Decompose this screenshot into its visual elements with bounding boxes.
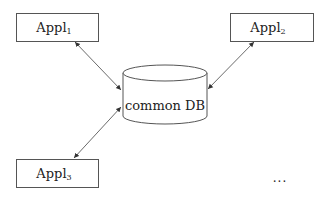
appl2-label: Appl2: [249, 20, 285, 36]
ellipsis-annotation: ...: [273, 171, 287, 185]
db-label: common DB: [125, 98, 205, 113]
diagram-svg: Appl1 Appl2 Appl3 common DB ...: [0, 0, 325, 197]
diagram-canvas: Appl1 Appl2 Appl3 common DB ...: [0, 0, 325, 197]
node-common-db: common DB: [123, 65, 207, 124]
node-appl3: Appl3: [17, 160, 99, 188]
appl1-label: Appl1: [35, 20, 71, 36]
appl3-label: Appl3: [35, 166, 71, 182]
edge-appl1-db: [75, 42, 121, 90]
edge-appl3-db: [74, 107, 121, 158]
edge-appl2-db: [208, 42, 254, 89]
node-appl2: Appl2: [231, 14, 314, 42]
node-appl1: Appl1: [17, 14, 99, 42]
cylinder-top: [123, 65, 207, 81]
